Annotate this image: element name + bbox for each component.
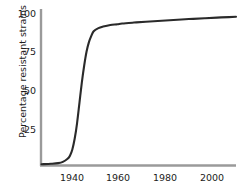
chart-figure: Percentage resistant strains 100 75 50 2… xyxy=(0,0,238,191)
plot-area xyxy=(0,0,238,191)
sigmoid-data-curve xyxy=(42,17,237,164)
